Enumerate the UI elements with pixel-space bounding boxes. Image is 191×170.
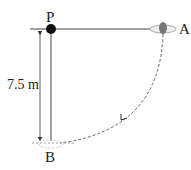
- pivot-point: [46, 24, 56, 34]
- bob-a: [159, 22, 167, 34]
- label-length: 7.5 m: [7, 78, 39, 92]
- ghost-bob-b: [39, 140, 63, 148]
- swing-path: [60, 34, 163, 143]
- direction-arrow-icon: [121, 114, 127, 120]
- label-p: P: [46, 10, 54, 25]
- label-a: A: [179, 22, 190, 37]
- label-b: B: [45, 150, 55, 165]
